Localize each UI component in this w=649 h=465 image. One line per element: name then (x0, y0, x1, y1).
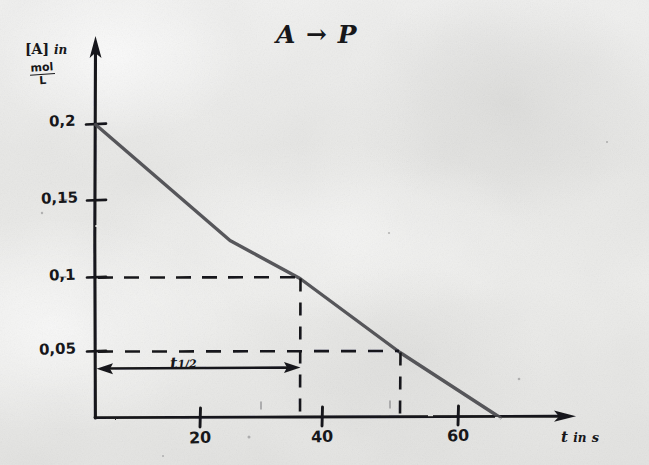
x-axis-label: t in s (561, 430, 599, 445)
y-axis-line (95, 50, 96, 418)
plot-drawing (0, 0, 649, 465)
half-life-subscript: 1/2 (177, 357, 197, 371)
x-axis-label-in: in (573, 431, 586, 445)
x-tick-60 (458, 406, 459, 425)
x-tick-label-20: 20 (189, 430, 212, 447)
x-axis-line (95, 416, 560, 417)
y-unit-denominator: L (30, 74, 56, 87)
figure-title: A → P (276, 22, 358, 47)
y-tick-label-0-2: 0,2 (49, 114, 76, 130)
y-axis-unit-fraction: mol L (29, 61, 55, 87)
half-life-arrow-shaft (103, 368, 293, 369)
figure-page: A → P [A] in mol L 0,2 0,15 0,1 0,05 20 … (0, 0, 649, 465)
paper-specks (41, 141, 608, 457)
concentration-decay-line (96, 125, 501, 418)
x-tick-40 (322, 407, 323, 426)
y-axis-label: [A] in (25, 42, 67, 56)
guide-vline-t-52 (400, 353, 401, 416)
guide-vline-t-35 (300, 279, 301, 417)
y-tick-label-0-15: 0,15 (41, 190, 79, 206)
y-tick-label-0-1: 0,1 (49, 268, 76, 284)
x-tick-20 (200, 408, 201, 427)
x-axis-label-unit: s (592, 430, 599, 445)
half-life-label: t1/2 (170, 354, 198, 371)
x-tick-label-40: 40 (311, 429, 334, 446)
y-tick-label-0-05: 0,05 (39, 341, 77, 357)
half-life-measure-arrow (97, 362, 301, 374)
y-tick-0-15 (87, 200, 106, 201)
x-axis-label-variable: t (561, 428, 568, 446)
y-axis-label-in: in (54, 43, 67, 57)
x-tick-label-60: 60 (447, 428, 470, 445)
guide-hline-0-05 (98, 351, 399, 352)
y-axis-label-quantity: [A] (25, 41, 49, 57)
